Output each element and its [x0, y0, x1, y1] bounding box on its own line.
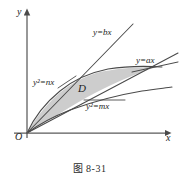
curve-label-y2-mx: y²=mx — [86, 102, 109, 111]
figure-caption: 图 8-31 — [0, 160, 179, 175]
curve-label-y2-nx: y²=nx — [33, 78, 54, 87]
y-axis-label: y — [17, 7, 21, 17]
curve-label-y-ax: y=ax — [136, 56, 155, 65]
curve-line-ax — [27, 53, 178, 133]
plot-canvas — [0, 0, 179, 181]
curve-label-y-bx: y=bx — [93, 28, 112, 37]
origin-label: O — [15, 132, 22, 142]
region-label-d: D — [78, 83, 86, 94]
x-axis-label: x — [166, 133, 170, 143]
figure-container: y x O y=bx y=ax y²=nx y²=mx D 图 8-31 — [0, 0, 179, 181]
